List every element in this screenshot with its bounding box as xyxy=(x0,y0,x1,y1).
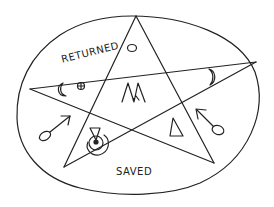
saved-label: SAVED xyxy=(116,166,152,177)
triangle-icon xyxy=(170,118,183,136)
circle-icon xyxy=(128,45,137,52)
mars-symbol-icon xyxy=(38,116,70,142)
crescent-moon-right-icon xyxy=(209,69,215,85)
mercury-like-symbol-icon xyxy=(87,128,108,155)
m-glyph-icon xyxy=(122,83,145,102)
pentagram xyxy=(30,16,256,167)
pentagram-sketch: RETURNED SAVED xyxy=(0,0,274,207)
mars-symbol-reversed-icon xyxy=(196,109,225,136)
earth-symbol-icon xyxy=(78,83,85,90)
